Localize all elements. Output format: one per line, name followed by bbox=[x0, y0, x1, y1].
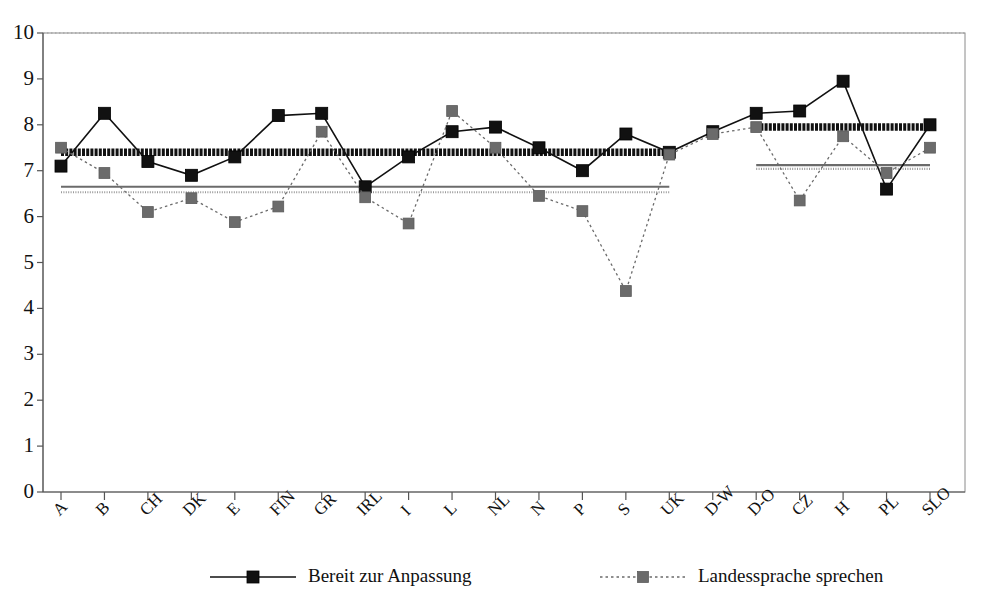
legend-marker-1 bbox=[247, 571, 259, 583]
y-axis-tick-label: 10 bbox=[0, 22, 34, 43]
data-point-marker[interactable] bbox=[185, 169, 197, 181]
legend-label-1: Bereit zur Anpassung bbox=[308, 565, 472, 587]
y-axis-tick-label: 6 bbox=[0, 206, 34, 227]
data-point-marker[interactable] bbox=[707, 129, 718, 140]
data-point-marker[interactable] bbox=[794, 195, 805, 206]
chart-container: 012345678910 ABCHDKEFINGRIRLILNLNPSUKD-W… bbox=[0, 0, 995, 611]
y-axis-tick-label: 2 bbox=[0, 389, 34, 410]
data-point-marker[interactable] bbox=[403, 151, 415, 163]
legend-label-2: Landessprache sprechen bbox=[698, 565, 883, 587]
legend-marker-2 bbox=[638, 572, 649, 583]
plot-area-border bbox=[43, 33, 965, 492]
data-point-marker[interactable] bbox=[751, 122, 762, 133]
data-point-marker[interactable] bbox=[446, 126, 458, 138]
data-point-marker[interactable] bbox=[229, 151, 241, 163]
data-point-marker[interactable] bbox=[620, 128, 632, 140]
data-point-marker[interactable] bbox=[837, 75, 849, 87]
data-point-marker[interactable] bbox=[881, 168, 892, 179]
data-point-marker[interactable] bbox=[838, 131, 849, 142]
data-point-marker[interactable] bbox=[447, 106, 458, 117]
data-point-marker[interactable] bbox=[403, 218, 414, 229]
y-axis-tick-label: 4 bbox=[0, 297, 34, 318]
y-axis-tick-label: 0 bbox=[0, 481, 34, 502]
data-point-marker[interactable] bbox=[99, 107, 111, 119]
data-point-marker[interactable] bbox=[924, 119, 936, 131]
data-point-marker[interactable] bbox=[576, 165, 588, 177]
data-point-marker[interactable] bbox=[143, 207, 154, 218]
y-axis-tick-label: 5 bbox=[0, 252, 34, 273]
data-point-marker[interactable] bbox=[925, 142, 936, 153]
data-point-marker[interactable] bbox=[750, 107, 762, 119]
data-point-marker[interactable] bbox=[533, 142, 545, 154]
data-point-marker[interactable] bbox=[229, 217, 240, 228]
data-point-marker[interactable] bbox=[881, 183, 893, 195]
data-point-marker[interactable] bbox=[55, 160, 67, 172]
data-point-marker[interactable] bbox=[664, 149, 675, 160]
y-axis-tick-label: 3 bbox=[0, 343, 34, 364]
data-point-marker[interactable] bbox=[794, 105, 806, 117]
y-axis-tick-label: 9 bbox=[0, 68, 34, 89]
y-axis-tick-label: 1 bbox=[0, 435, 34, 456]
data-point-marker[interactable] bbox=[534, 191, 545, 202]
data-point-marker[interactable] bbox=[316, 107, 328, 119]
data-point-marker[interactable] bbox=[360, 192, 371, 203]
data-point-marker[interactable] bbox=[273, 201, 284, 212]
data-point-marker[interactable] bbox=[272, 110, 284, 122]
data-point-marker[interactable] bbox=[490, 121, 502, 133]
data-point-marker[interactable] bbox=[577, 206, 588, 217]
data-point-marker[interactable] bbox=[56, 142, 67, 153]
data-point-marker[interactable] bbox=[316, 126, 327, 137]
data-point-marker[interactable] bbox=[99, 168, 110, 179]
data-point-marker[interactable] bbox=[621, 286, 632, 297]
y-axis-tick-label: 8 bbox=[0, 114, 34, 135]
y-axis-tick-label: 7 bbox=[0, 160, 34, 181]
data-point-marker[interactable] bbox=[490, 142, 501, 153]
data-point-marker[interactable] bbox=[186, 193, 197, 204]
data-point-marker[interactable] bbox=[142, 156, 154, 168]
